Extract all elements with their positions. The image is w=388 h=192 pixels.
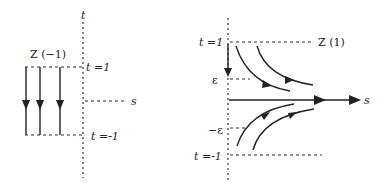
- arrow-down-icon: [36, 100, 44, 110]
- right-eps-label: ε: [212, 74, 218, 87]
- arrow-down-icon: [22, 100, 30, 110]
- arrow-down-icon: [56, 100, 64, 110]
- arrow-right-icon: [314, 95, 326, 105]
- arrow-icon: [285, 76, 294, 84]
- left-t1-label: t =1: [86, 61, 110, 74]
- right-t1-label: t =1: [199, 36, 223, 49]
- right-neg-eps-label: −ε: [208, 124, 223, 137]
- upper-trajectories: [236, 46, 313, 91]
- right-zone-label: Z (1): [318, 36, 345, 49]
- arrow-down-icon: [224, 68, 232, 77]
- arrow-right-icon: [349, 95, 361, 105]
- left-zone-label: Z (−1): [30, 48, 66, 61]
- left-tm1-label: t =-1: [91, 130, 119, 143]
- left-s-axis-label: s: [131, 95, 137, 108]
- phase-diagram: t s Z (−1) t =1 t =-1 t =1 Z (1) ε −ε t …: [0, 0, 388, 192]
- left-t-axis-label: t: [81, 9, 86, 22]
- arrow-icon: [288, 112, 297, 119]
- right-s-axis-label: s: [364, 94, 370, 107]
- left-flow-lines: [22, 67, 64, 135]
- lower-trajectories: [237, 104, 314, 150]
- right-tm1-label: t =-1: [194, 150, 222, 163]
- right-panel: t =1 Z (1) ε −ε t =-1 s: [194, 18, 370, 182]
- left-panel: t s Z (−1) t =1 t =-1: [22, 9, 137, 178]
- arrow-icon: [262, 80, 271, 88]
